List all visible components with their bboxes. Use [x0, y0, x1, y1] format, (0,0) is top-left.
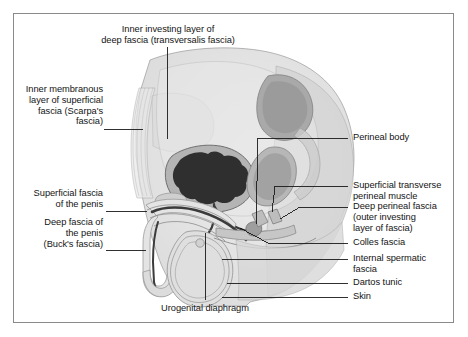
label-line: fascia [353, 264, 377, 274]
spermatic-cord-section [196, 239, 204, 247]
label-line: Inner membranous [26, 84, 103, 94]
label-superficial-transverse-perineal-muscle: Superficial transverseperineal muscle [353, 180, 465, 202]
label-line: Urogenital diaphragm [161, 303, 249, 313]
label-dartos-tunic: Dartos tunic [353, 277, 465, 288]
label-line: deep fascia (transversalis fascia) [101, 35, 235, 45]
label-line: Superficial fascia [34, 188, 103, 198]
label-line: layer of superficial [29, 95, 103, 105]
label-line: of the penis [56, 199, 103, 209]
label-deep-fascia-of-penis: Deep fascia ofthe penis(Buck's fascia) [10, 217, 103, 249]
label-line: Deep fascia of [44, 217, 103, 227]
label-line: fascia) [76, 116, 103, 126]
label-colles-fascia: Colles fascia [353, 237, 465, 248]
anatomy-figure: Inner investing layer ofdeep fascia (tra… [0, 0, 468, 337]
illustration-group [104, 47, 354, 307]
label-line: Perineal body [353, 132, 409, 142]
label-urogenital-diaphragm: Urogenital diaphragm [140, 303, 270, 314]
label-line: layer of fascia) [353, 223, 413, 233]
label-line: Inner investing layer of [122, 24, 214, 34]
label-inner-investing-layer-deep-fascia: Inner investing layer ofdeep fascia (tra… [68, 24, 268, 46]
label-line: Skin [353, 291, 371, 301]
label-superficial-fascia-of-penis: Superficial fasciaof the penis [10, 188, 103, 210]
label-line: Internal spermatic [353, 253, 426, 263]
label-line: Superficial transverse [353, 180, 441, 190]
label-skin: Skin [353, 291, 465, 302]
label-line: Dartos tunic [353, 277, 402, 287]
label-perineal-body: Perineal body [353, 132, 465, 143]
label-line: the penis [66, 228, 103, 238]
label-line: (Buck's fascia) [44, 239, 103, 249]
label-inner-membranous-layer-superficial-fascia: Inner membranouslayer of superficialfasc… [8, 84, 103, 127]
label-line: fascia (Scarpa's [38, 106, 103, 116]
label-line: Colles fascia [353, 237, 405, 247]
label-line: Deep perineal fascia [353, 201, 437, 211]
label-internal-spermatic-fascia: Internal spermaticfascia [353, 253, 465, 275]
label-line: perineal muscle [353, 191, 417, 201]
label-deep-perineal-fascia: Deep perineal fascia(outer investinglaye… [353, 201, 465, 233]
label-line: (outer investing [353, 212, 416, 222]
